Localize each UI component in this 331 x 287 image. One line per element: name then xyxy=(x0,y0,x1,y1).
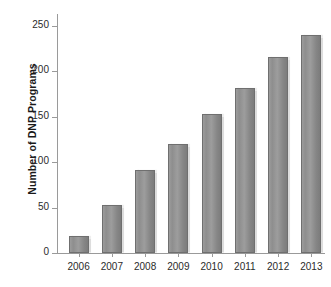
x-tick-label-2007: 2007 xyxy=(101,261,123,272)
y-tick-label: 0 xyxy=(23,246,49,257)
x-tick-mark xyxy=(245,253,246,257)
x-tick-label-2013: 2013 xyxy=(300,261,322,272)
x-tick-mark xyxy=(112,253,113,257)
bar-2011 xyxy=(235,88,255,253)
bar-2006 xyxy=(69,236,89,253)
x-tick-mark xyxy=(278,253,279,257)
x-tick-label-2012: 2012 xyxy=(267,261,289,272)
x-tick-label-2010: 2010 xyxy=(201,261,223,272)
x-tick-mark xyxy=(178,253,179,257)
x-tick-label-2008: 2008 xyxy=(134,261,156,272)
y-tick-mark xyxy=(52,253,58,254)
bar-2012 xyxy=(268,57,288,253)
y-tick-label: 50 xyxy=(23,201,49,212)
x-tick-mark xyxy=(79,253,80,257)
x-axis-line xyxy=(57,253,325,254)
y-tick-label: 150 xyxy=(23,110,49,121)
y-tick-label: 200 xyxy=(23,64,49,75)
bar-2013 xyxy=(301,35,321,253)
bar-2010 xyxy=(202,114,222,253)
plot-area: 050100150200250 200620072008200920102011… xyxy=(57,14,325,254)
x-tick-label-2011: 2011 xyxy=(234,261,256,272)
bar-2007 xyxy=(102,205,122,253)
y-axis-title: Number of DNP Programs xyxy=(26,34,38,224)
bar-2009 xyxy=(168,144,188,253)
y-tick-label: 100 xyxy=(23,155,49,166)
x-tick-mark xyxy=(212,253,213,257)
x-tick-label-2009: 2009 xyxy=(167,261,189,272)
x-tick-label-2006: 2006 xyxy=(68,261,90,272)
x-tick-mark xyxy=(145,253,146,257)
x-tick-mark xyxy=(311,253,312,257)
bar-chart: Number of DNP Programs 050100150200250 2… xyxy=(0,0,331,287)
bar-2008 xyxy=(135,170,155,253)
y-tick-label: 250 xyxy=(23,19,49,30)
bar-series xyxy=(58,14,325,253)
